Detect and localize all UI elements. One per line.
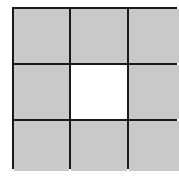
three-by-three-grid xyxy=(12,7,177,169)
grid-cell-r1-c3 xyxy=(129,9,179,63)
grid-cell-r3-c1 xyxy=(14,121,69,171)
grid-cell-center-empty xyxy=(71,65,127,119)
grid-cell-r3-c2 xyxy=(71,121,127,171)
grid-cell-r3-c3 xyxy=(129,121,179,171)
grid-cell-r1-c2 xyxy=(71,9,127,63)
grid-cell-r2-c3 xyxy=(129,65,179,119)
grid-cell-r2-c1 xyxy=(14,65,69,119)
grid-cell-r1-c1 xyxy=(14,9,69,63)
